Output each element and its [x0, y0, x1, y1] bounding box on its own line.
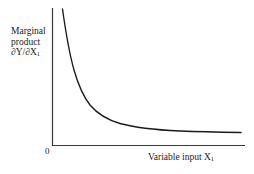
figure-container: Marginal product ∂Y/∂X1 Variable input X…: [0, 0, 254, 174]
origin-label: 0: [45, 146, 50, 156]
x-axis-label: Variable input X1: [148, 152, 214, 163]
marginal-product-curve: [63, 9, 242, 133]
y-axis-label: Marginal product ∂Y/∂X1: [11, 26, 51, 58]
y-axis-label-line-2: product: [11, 37, 51, 48]
x-axis-label-subscript: 1: [211, 155, 214, 162]
y-axis-label-derivative: ∂Y/∂X: [11, 47, 37, 57]
y-axis-label-line-3: ∂Y/∂X1: [11, 47, 51, 58]
y-axis-label-line-1: Marginal: [11, 26, 51, 37]
y-axis-label-subscript: 1: [37, 51, 40, 58]
x-axis-label-text: Variable input X: [148, 152, 211, 162]
